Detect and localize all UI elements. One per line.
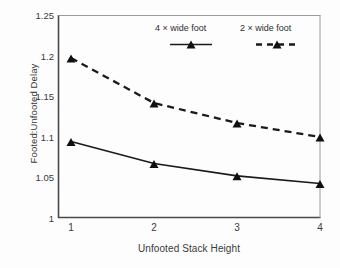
series-line-dashed <box>71 58 320 137</box>
plot-area <box>0 0 340 268</box>
data-point-marker <box>316 134 325 142</box>
chart-figure: Footed:Unfooted Delay 1 1.05 1.1 1.15 1.… <box>0 0 340 268</box>
series-line-solid <box>71 142 320 184</box>
legend-sample-2x-wide-foot <box>256 41 298 49</box>
series-4x-wide-foot <box>71 142 320 184</box>
series-line-solid-path <box>71 142 320 184</box>
markers-2x-wide-foot <box>67 55 325 142</box>
legend-sample-4x-wide-foot <box>170 41 212 49</box>
series-2x-wide-foot <box>71 58 320 137</box>
